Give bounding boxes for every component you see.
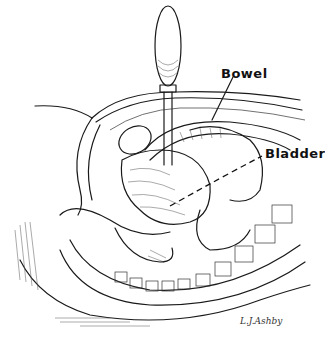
spine-icon xyxy=(60,205,305,305)
bowel-label: Bowel xyxy=(221,66,268,81)
bladder-label: Bladder xyxy=(265,146,325,161)
artist-signature: L.J.Ashby xyxy=(240,316,282,326)
